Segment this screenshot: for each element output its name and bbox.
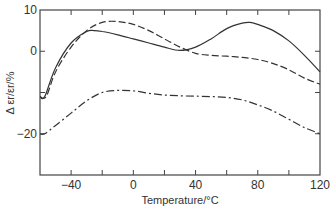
x-tick-label: 120 (310, 178, 330, 192)
x-tick-label: −40 (61, 178, 82, 192)
x-tick-label: 80 (251, 178, 265, 192)
line-chart: −4004080120100−20 Temperature/°C Δ εr/εr… (0, 0, 336, 210)
y-tick-label: 0 (30, 44, 37, 58)
series-solid-line (40, 22, 320, 98)
series-dash-dot-line (40, 90, 320, 134)
x-tick-label: 40 (189, 178, 203, 192)
x-axis-label: Temperature/°C (141, 194, 218, 206)
y-tick-label: −20 (17, 127, 38, 141)
series-group (40, 21, 320, 134)
tick-labels: −4004080120100−20 (17, 3, 331, 192)
y-axis-label: Δ εr/εr/% (4, 71, 16, 114)
x-tick-label: 0 (130, 178, 137, 192)
y-tick-label: 10 (24, 3, 38, 17)
